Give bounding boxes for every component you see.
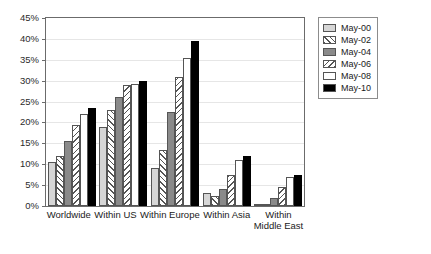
y-axis-tick-label: 0% bbox=[25, 201, 39, 211]
legend-item-label: May-06 bbox=[341, 60, 371, 69]
legend-item: May-00 bbox=[323, 22, 371, 34]
bar bbox=[115, 97, 123, 206]
x-axis-category-label: Within Europe bbox=[140, 209, 200, 231]
bar bbox=[175, 77, 183, 207]
bar bbox=[139, 81, 147, 206]
bar bbox=[48, 162, 56, 206]
bar bbox=[235, 160, 243, 206]
bar bbox=[270, 198, 278, 206]
bar bbox=[254, 204, 262, 206]
y-axis-tick-label: 15% bbox=[20, 139, 39, 149]
bar-group bbox=[254, 18, 302, 206]
x-axis-category-label: Worldwide bbox=[47, 209, 91, 231]
legend-item-label: May-00 bbox=[341, 24, 371, 33]
legend-item-label: May-10 bbox=[341, 84, 371, 93]
legend-swatch-icon bbox=[323, 84, 336, 92]
legend-item-label: May-08 bbox=[341, 72, 371, 81]
x-axis-category-label: Within Middle East bbox=[254, 209, 304, 231]
legend-swatch-icon bbox=[323, 60, 336, 68]
bar bbox=[72, 125, 80, 206]
bar bbox=[64, 141, 72, 206]
y-axis-tick-label: 25% bbox=[20, 97, 39, 107]
bar bbox=[159, 150, 167, 206]
legend-item-label: May-04 bbox=[341, 48, 371, 57]
legend-swatch-icon bbox=[323, 36, 336, 44]
bar bbox=[227, 175, 235, 206]
bar bbox=[286, 177, 294, 206]
y-axis-tick-label: 10% bbox=[20, 159, 39, 169]
legend-swatch-icon bbox=[323, 72, 336, 80]
bar-group bbox=[203, 18, 251, 206]
chart-figure: 45%40%35%30%25%20%15%10%5%0% WorldwideWi… bbox=[0, 0, 431, 254]
legend-swatch-icon bbox=[323, 48, 336, 56]
y-axis-tick bbox=[42, 206, 46, 207]
bar bbox=[107, 110, 115, 206]
y-axis-tick-label: 35% bbox=[20, 55, 39, 65]
bar bbox=[123, 85, 131, 206]
bar bbox=[191, 41, 199, 206]
bar bbox=[243, 156, 251, 206]
legend-item: May-10 bbox=[323, 82, 371, 94]
bar-group bbox=[48, 18, 96, 206]
legend-item: May-08 bbox=[323, 70, 371, 82]
bar bbox=[203, 193, 211, 206]
plot-area: 45%40%35%30%25%20%15%10%5%0% bbox=[45, 17, 305, 207]
x-axis-category-label: Within Asia bbox=[203, 209, 250, 231]
bar bbox=[167, 112, 175, 206]
legend-item: May-06 bbox=[323, 58, 371, 70]
y-axis-tick-label: 40% bbox=[20, 34, 39, 44]
legend-item-label: May-02 bbox=[341, 36, 371, 45]
bar bbox=[294, 175, 302, 206]
bar bbox=[211, 196, 219, 206]
bar bbox=[131, 84, 139, 206]
bar bbox=[151, 168, 159, 206]
legend-swatch-icon bbox=[323, 24, 336, 32]
y-axis-tick-label: 20% bbox=[20, 118, 39, 128]
y-axis-tick-label: 30% bbox=[20, 76, 39, 86]
bar bbox=[56, 156, 64, 206]
bar bbox=[88, 108, 96, 206]
bar-group bbox=[151, 18, 199, 206]
bar-series-container bbox=[46, 18, 304, 206]
bar bbox=[99, 127, 107, 206]
bar bbox=[183, 58, 191, 206]
legend-item: May-02 bbox=[323, 34, 371, 46]
x-axis-category-labels: WorldwideWithin USWithin EuropeWithin As… bbox=[45, 209, 305, 231]
legend-item: May-04 bbox=[323, 46, 371, 58]
bar-group bbox=[99, 18, 147, 206]
x-axis-category-label: Within US bbox=[94, 209, 136, 231]
bar bbox=[262, 204, 270, 206]
bar bbox=[278, 187, 286, 206]
bar bbox=[80, 114, 88, 206]
chart-legend: May-00May-02May-04May-06May-08May-10 bbox=[318, 17, 378, 99]
y-axis-tick-label: 5% bbox=[25, 180, 39, 190]
bar bbox=[219, 189, 227, 206]
y-axis-tick-label: 45% bbox=[20, 13, 39, 23]
